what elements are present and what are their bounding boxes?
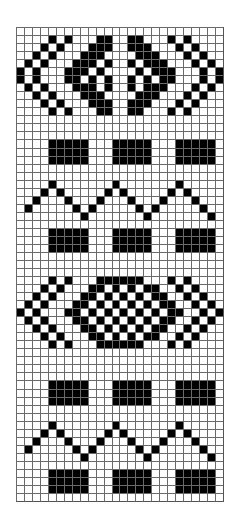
empty-stitch-cell	[64, 372, 72, 380]
empty-stitch-cell	[207, 292, 215, 300]
empty-stitch-cell	[40, 292, 48, 300]
empty-stitch-cell	[175, 445, 183, 453]
empty-stitch-cell	[159, 91, 167, 99]
empty-stitch-cell	[143, 405, 151, 413]
empty-stitch-cell	[127, 260, 135, 268]
empty-stitch-cell	[88, 316, 96, 324]
empty-stitch-cell	[40, 172, 48, 180]
filled-stitch-cell	[119, 236, 127, 244]
empty-stitch-cell	[96, 244, 104, 252]
empty-stitch-cell	[40, 51, 48, 59]
empty-stitch-cell	[159, 405, 167, 413]
empty-stitch-cell	[151, 389, 159, 397]
filled-stitch-cell	[80, 485, 88, 493]
empty-stitch-cell	[112, 429, 120, 437]
empty-stitch-cell	[56, 252, 64, 260]
filled-stitch-cell	[104, 43, 112, 51]
empty-stitch-cell	[143, 172, 151, 180]
empty-stitch-cell	[24, 115, 32, 123]
empty-stitch-cell	[191, 308, 199, 316]
filled-stitch-cell	[56, 188, 64, 196]
filled-stitch-cell	[207, 389, 215, 397]
empty-stitch-cell	[151, 115, 159, 123]
empty-stitch-cell	[40, 453, 48, 461]
filled-stitch-cell	[48, 244, 56, 252]
empty-stitch-cell	[24, 340, 32, 348]
empty-stitch-cell	[167, 252, 175, 260]
filled-stitch-cell	[175, 421, 183, 429]
empty-stitch-cell	[48, 83, 56, 91]
empty-stitch-cell	[32, 469, 40, 477]
empty-stitch-cell	[119, 131, 127, 139]
empty-stitch-cell	[24, 405, 32, 413]
empty-stitch-cell	[104, 115, 112, 123]
empty-stitch-cell	[183, 99, 191, 107]
filled-stitch-cell	[80, 389, 88, 397]
filled-stitch-cell	[72, 469, 80, 477]
filled-stitch-cell	[40, 83, 48, 91]
empty-stitch-cell	[56, 51, 64, 59]
empty-stitch-cell	[143, 27, 151, 35]
empty-stitch-cell	[24, 477, 32, 485]
filled-stitch-cell	[16, 308, 24, 316]
filled-stitch-cell	[159, 83, 167, 91]
empty-stitch-cell	[88, 437, 96, 445]
empty-stitch-cell	[215, 356, 223, 364]
filled-stitch-cell	[48, 324, 56, 332]
empty-stitch-cell	[48, 164, 56, 172]
empty-stitch-cell	[96, 324, 104, 332]
empty-stitch-cell	[40, 493, 48, 501]
empty-stitch-cell	[88, 115, 96, 123]
empty-stitch-cell	[16, 356, 24, 364]
empty-stitch-cell	[191, 429, 199, 437]
empty-stitch-cell	[112, 292, 120, 300]
filled-stitch-cell	[48, 139, 56, 147]
empty-stitch-cell	[16, 324, 24, 332]
filled-stitch-cell	[72, 156, 80, 164]
empty-stitch-cell	[96, 485, 104, 493]
empty-stitch-cell	[151, 148, 159, 156]
empty-stitch-cell	[159, 260, 167, 268]
empty-stitch-cell	[24, 397, 32, 405]
empty-stitch-cell	[32, 188, 40, 196]
empty-stitch-cell	[24, 35, 32, 43]
empty-stitch-cell	[143, 107, 151, 115]
filled-stitch-cell	[48, 397, 56, 405]
filled-stitch-cell	[159, 59, 167, 67]
empty-stitch-cell	[24, 236, 32, 244]
empty-stitch-cell	[56, 115, 64, 123]
empty-stitch-cell	[167, 115, 175, 123]
empty-stitch-cell	[16, 372, 24, 380]
empty-stitch-cell	[56, 421, 64, 429]
empty-stitch-cell	[119, 461, 127, 469]
empty-stitch-cell	[104, 413, 112, 421]
empty-stitch-cell	[88, 131, 96, 139]
filled-stitch-cell	[32, 292, 40, 300]
empty-stitch-cell	[88, 196, 96, 204]
empty-stitch-cell	[72, 284, 80, 292]
empty-stitch-cell	[24, 244, 32, 252]
empty-stitch-cell	[104, 477, 112, 485]
filled-stitch-cell	[207, 477, 215, 485]
empty-stitch-cell	[199, 493, 207, 501]
empty-stitch-cell	[96, 308, 104, 316]
empty-stitch-cell	[215, 268, 223, 276]
empty-stitch-cell	[32, 340, 40, 348]
filled-stitch-cell	[80, 51, 88, 59]
empty-stitch-cell	[16, 348, 24, 356]
filled-stitch-cell	[64, 139, 72, 147]
empty-stitch-cell	[32, 252, 40, 260]
filled-stitch-cell	[72, 228, 80, 236]
filled-stitch-cell	[199, 308, 207, 316]
filled-stitch-cell	[183, 477, 191, 485]
filled-stitch-cell	[191, 469, 199, 477]
empty-stitch-cell	[88, 123, 96, 131]
filled-stitch-cell	[88, 324, 96, 332]
filled-stitch-cell	[104, 308, 112, 316]
empty-stitch-cell	[175, 316, 183, 324]
empty-stitch-cell	[80, 196, 88, 204]
empty-stitch-cell	[183, 461, 191, 469]
empty-stitch-cell	[191, 252, 199, 260]
empty-stitch-cell	[24, 469, 32, 477]
empty-stitch-cell	[191, 35, 199, 43]
